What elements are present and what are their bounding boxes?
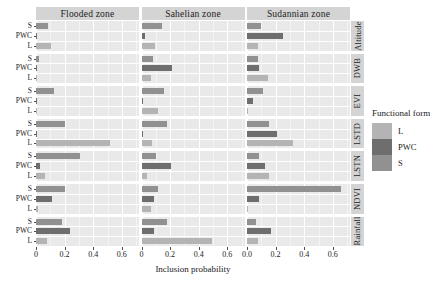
gridline-horizontal: [247, 194, 350, 195]
gridline-minor: [108, 151, 109, 181]
gridline-horizontal: [142, 129, 245, 130]
y-axis-tick: [34, 222, 36, 223]
y-axis-tick: [34, 231, 36, 232]
y-axis-tick: [34, 209, 36, 210]
x-axis-title: Inclusion probability: [36, 264, 350, 274]
y-axis-tick: [34, 176, 36, 177]
bar-l: [247, 238, 258, 244]
gridline-horizontal: [142, 96, 245, 97]
gridline-minor: [108, 54, 109, 84]
y-axis-tick: [34, 124, 36, 125]
bar-pwc: [142, 196, 154, 202]
gridline-minor: [136, 119, 137, 149]
bar-s: [36, 56, 39, 62]
gridline-horizontal: [36, 236, 139, 237]
bar-s: [142, 186, 158, 192]
y-axis-label-l: L: [8, 107, 32, 114]
gridline-major: [122, 151, 123, 181]
bar-pwc: [36, 131, 37, 137]
gridline-minor: [347, 21, 348, 51]
gridline-major: [304, 217, 305, 247]
x-axis-tick-label: 0.0: [235, 250, 259, 259]
gridline-major: [304, 151, 305, 181]
x-axis-tick-label: 0.2: [53, 250, 77, 259]
gridline-major: [65, 86, 66, 116]
x-axis-tick-label: 0: [130, 250, 154, 259]
y-axis-tick: [34, 156, 36, 157]
bar-s: [247, 56, 258, 62]
gridline-major: [93, 54, 94, 84]
legend-swatch-pwc[interactable]: PWC: [372, 139, 392, 155]
panel-dwb-sahelian: [142, 54, 245, 84]
gridline-major: [227, 184, 228, 214]
gridline-horizontal: [142, 63, 245, 64]
bar-s: [142, 153, 156, 159]
gridline-major: [276, 151, 277, 181]
gridline-minor: [50, 54, 51, 84]
bar-s: [247, 88, 263, 94]
row-strip-dwb: DWB: [351, 54, 364, 84]
legend-swatch-l[interactable]: L: [372, 123, 392, 139]
gridline-minor: [108, 21, 109, 51]
bar-l: [36, 43, 51, 49]
legend-swatch-s[interactable]: S: [372, 155, 392, 171]
row-strip-ndvi: NDVI: [351, 184, 364, 214]
legend: Functional form LPWCS: [372, 108, 444, 171]
y-axis-label-l: L: [8, 172, 32, 179]
x-axis-tick-label: 0.6: [321, 250, 345, 259]
panel-evi-sahelian: [142, 86, 245, 116]
bar-l: [247, 108, 248, 114]
gridline-major: [65, 54, 66, 84]
gridline-horizontal: [247, 129, 350, 130]
gridline-minor: [347, 119, 348, 149]
gridline-major: [199, 86, 200, 116]
gridline-minor: [184, 151, 185, 181]
y-axis-tick: [34, 189, 36, 190]
bar-pwc: [142, 163, 171, 169]
bar-l: [36, 75, 37, 81]
y-axis-label-l: L: [8, 74, 32, 81]
gridline-major: [122, 21, 123, 51]
gridline-minor: [347, 86, 348, 116]
gridline-minor: [347, 54, 348, 84]
gridline-minor: [79, 86, 80, 116]
panel-lstd-sahelian: [142, 119, 245, 149]
gridline-major: [304, 86, 305, 116]
gridline-minor: [108, 217, 109, 247]
bar-pwc: [142, 98, 143, 104]
gridline-horizontal: [247, 161, 350, 162]
panel-lstn-sudannian: [247, 151, 350, 181]
gridline-horizontal: [247, 236, 350, 237]
legend-keys: LPWCS: [372, 123, 392, 171]
gridline-horizontal: [36, 139, 139, 140]
bar-l: [247, 75, 268, 81]
panel-evi-flooded: [36, 86, 139, 116]
gridline-minor: [213, 184, 214, 214]
gridline-minor: [319, 217, 320, 247]
bar-l: [247, 206, 248, 212]
gridline-minor: [213, 86, 214, 116]
gridline-horizontal: [247, 96, 350, 97]
gridline-minor: [136, 151, 137, 181]
bar-l: [247, 173, 269, 179]
gridline-minor: [347, 151, 348, 181]
y-axis-label-l: L: [8, 237, 32, 244]
gridline-major: [122, 119, 123, 149]
gridline-minor: [290, 21, 291, 51]
gridline-horizontal: [142, 31, 245, 32]
gridline-horizontal: [247, 41, 350, 42]
gridline-horizontal: [36, 171, 139, 172]
gridline-minor: [184, 86, 185, 116]
y-axis-tick: [34, 111, 36, 112]
bar-pwc: [247, 98, 253, 104]
bar-s: [36, 186, 65, 192]
chart-root: Flooded zoneSahelian zoneSudannian zoneA…: [0, 0, 444, 289]
gridline-major: [93, 217, 94, 247]
gridline-minor: [290, 151, 291, 181]
x-axis-tick-label: 0.4: [81, 250, 105, 259]
panel-lstd-flooded: [36, 119, 139, 149]
bar-s: [142, 121, 167, 127]
gridline-minor: [213, 119, 214, 149]
gridline-minor: [108, 86, 109, 116]
gridline-minor: [136, 21, 137, 51]
